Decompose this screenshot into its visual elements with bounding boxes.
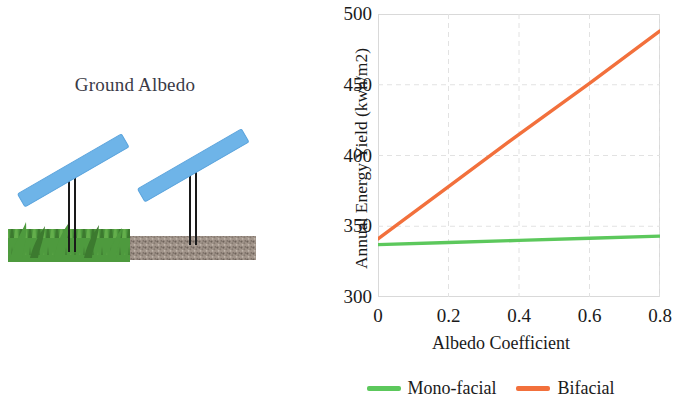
panel-right bbox=[138, 129, 249, 202]
plot-svg bbox=[378, 14, 660, 297]
x-tick-label: 0.6 bbox=[578, 305, 602, 327]
energy-yield-chart: Annual Energy Yield (kwh/m2) 30035040045… bbox=[300, 0, 681, 409]
plot-area: 300350400450500 00.20.40.60.8 bbox=[378, 14, 660, 297]
legend-label: Bifacial bbox=[557, 378, 614, 399]
y-tick-label: 400 bbox=[344, 145, 373, 167]
gravel-ground bbox=[130, 236, 256, 260]
legend-item[interactable]: Bifacial bbox=[516, 378, 614, 399]
y-tick-label: 350 bbox=[344, 215, 373, 237]
y-tick-label: 300 bbox=[344, 286, 373, 308]
y-tick-label: 500 bbox=[344, 3, 373, 25]
x-tick-label: 0.4 bbox=[507, 305, 531, 327]
y-tick-label: 450 bbox=[344, 74, 373, 96]
legend-swatch-icon bbox=[516, 386, 550, 391]
x-tick-label: 0 bbox=[373, 305, 383, 327]
panel-left bbox=[18, 134, 129, 207]
legend-label: Mono-facial bbox=[408, 378, 497, 399]
x-tick-label: 0.8 bbox=[648, 305, 672, 327]
x-axis-label: Albedo Coefficient bbox=[336, 333, 666, 354]
legend-item[interactable]: Mono-facial bbox=[367, 378, 497, 399]
panel-right-post bbox=[189, 167, 197, 245]
ground-albedo-illustration: Ground Albedo bbox=[0, 0, 290, 300]
chart-legend: Mono-facialBifacial bbox=[300, 378, 681, 399]
x-tick-label: 0.2 bbox=[437, 305, 461, 327]
legend-swatch-icon bbox=[367, 386, 401, 391]
illustration-graphic bbox=[0, 0, 290, 300]
